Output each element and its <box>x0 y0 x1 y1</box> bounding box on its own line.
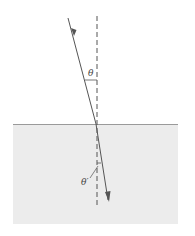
refraction-diagram <box>0 0 195 236</box>
refracted-ray <box>96 124 108 200</box>
refracted-arrow-icon <box>105 191 111 202</box>
theta-prime-label: θ′ <box>81 177 88 187</box>
theta-label: θ <box>88 68 93 78</box>
